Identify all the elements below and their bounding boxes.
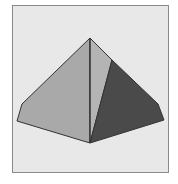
pyramid-left-face <box>17 38 90 143</box>
pyramid-diagram <box>0 0 178 184</box>
